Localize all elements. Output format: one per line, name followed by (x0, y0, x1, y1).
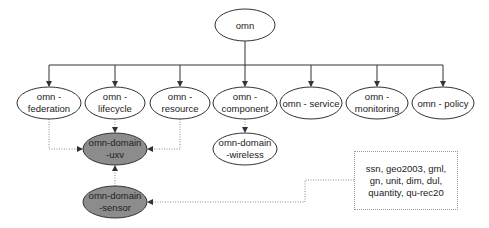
node-label-line2: -sensor (99, 202, 131, 213)
node-label-line1: omn - service (282, 98, 339, 109)
node-omn[interactable]: omn (215, 9, 275, 41)
node-label-line1: omn - (233, 91, 257, 102)
node-label-line2: component (221, 103, 268, 114)
node-label-line1: omn-domain (89, 190, 142, 201)
node-label-line2: -uxv (106, 149, 124, 160)
node-label-line1: omn - (103, 91, 127, 102)
node-omn-service[interactable]: omn - service (280, 87, 342, 119)
node-omn-component[interactable]: omn - component (213, 87, 277, 119)
node-omn-lifecycle[interactable]: omn - lifecycle (85, 87, 145, 119)
tree-connectors (49, 41, 443, 86)
node-label-line1: omn - (37, 91, 61, 102)
node-label-line1: omn - (168, 91, 192, 102)
external-ontologies-text: ssn, geo2003, gml, gn, unit, dim, dul, q… (359, 163, 453, 199)
node-label-line1: omn - (365, 91, 389, 102)
external-ontologies-box: ssn, geo2003, gml, gn, unit, dim, dul, q… (354, 151, 458, 210)
node-omn-domain-sensor[interactable]: omn-domain -sensor (83, 186, 147, 218)
node-label-line1: omn-domain (219, 137, 272, 148)
node-omn-monitoring[interactable]: omn - monitoring (346, 87, 408, 119)
node-label-line2: monitoring (355, 103, 399, 114)
node-omn-label: omn (236, 20, 254, 31)
node-label-line2: lifecycle (98, 103, 132, 114)
node-label-line1: omn - policy (417, 98, 468, 109)
node-omn-federation[interactable]: omn - federation (17, 87, 81, 119)
node-label-line2: resource (162, 103, 199, 114)
node-label-line2: federation (28, 103, 70, 114)
node-omn-resource[interactable]: omn - resource (150, 87, 210, 119)
node-label-line2: -wireless (226, 149, 264, 160)
node-omn-domain-uxv[interactable]: omn-domain -uxv (83, 133, 147, 165)
node-omn-policy[interactable]: omn - policy (412, 87, 474, 119)
node-omn-domain-wireless[interactable]: omn-domain -wireless (213, 133, 277, 165)
node-label-line1: omn-domain (89, 137, 142, 148)
